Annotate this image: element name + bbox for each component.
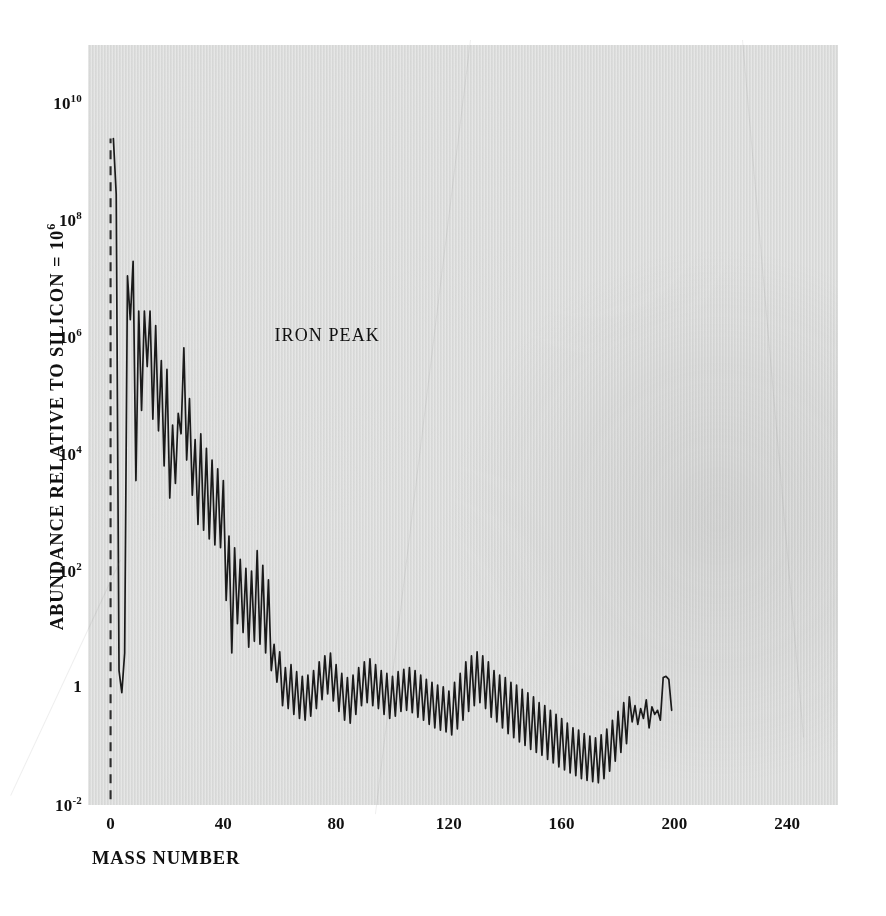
- plot-area: IRON PEAK: [88, 45, 838, 805]
- y-axis-title-exponent: 6: [44, 223, 58, 230]
- figure-root: IRON PEAK 1010108106104102110-2 ABUNDANC…: [0, 0, 886, 916]
- y-tick-label-6: 10-2: [55, 794, 82, 816]
- x-tick-label-3: 120: [436, 814, 462, 834]
- x-tick-label-4: 160: [549, 814, 575, 834]
- y-tick-label-0: 1010: [53, 92, 82, 114]
- y-tick-exponent-0: 10: [71, 92, 82, 104]
- y-tick-mantissa-5: 1: [73, 677, 82, 696]
- y-axis-title: ABUNDANCE RELATIVE TO SILICON = 106: [44, 147, 67, 707]
- y-axis-tick-labels: 1010108106104102110-2: [0, 0, 82, 916]
- y-tick-exponent-4: 2: [76, 560, 82, 572]
- y-tick-exponent-6: -2: [72, 794, 82, 806]
- y-tick-exponent-2: 6: [76, 326, 82, 338]
- y-tick-mantissa-6: 10: [55, 796, 72, 815]
- abundance-curve-svg: [88, 45, 838, 805]
- x-tick-label-0: 0: [106, 814, 115, 834]
- y-tick-mantissa-0: 10: [53, 94, 70, 113]
- y-axis-title-text: ABUNDANCE RELATIVE TO SILICON = 10: [47, 230, 67, 630]
- x-tick-label-6: 240: [774, 814, 800, 834]
- x-tick-label-1: 40: [215, 814, 232, 834]
- y-tick-label-5: 1: [73, 677, 82, 697]
- x-axis-title: MASS NUMBER: [92, 848, 240, 869]
- y-tick-exponent-1: 8: [76, 209, 82, 221]
- y-tick-exponent-3: 4: [76, 443, 82, 455]
- iron-peak-annotation: IRON PEAK: [274, 325, 379, 346]
- abundance-line: [113, 139, 671, 783]
- x-tick-label-2: 80: [327, 814, 344, 834]
- x-tick-label-5: 200: [661, 814, 687, 834]
